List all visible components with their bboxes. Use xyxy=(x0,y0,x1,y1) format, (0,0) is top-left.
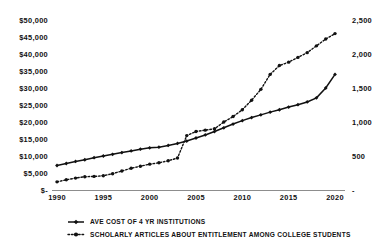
left-axis-tick: $35,000 xyxy=(19,67,48,76)
left-axis-tick: $30,000 xyxy=(19,84,48,93)
data-point xyxy=(129,167,132,170)
x-axis-tick: 1990 xyxy=(48,193,66,202)
data-point xyxy=(55,180,58,183)
legend-label: AVE COST OF 4 YR INSTITUTIONS xyxy=(90,218,206,225)
left-axis-tick: $50,000 xyxy=(19,16,48,25)
left-axis-tick: $- xyxy=(41,186,48,195)
x-axis-tick: 2015 xyxy=(280,193,298,202)
data-point xyxy=(139,165,142,168)
x-axis-tick: 1995 xyxy=(95,193,113,202)
right-axis-tick: 2,000 xyxy=(352,50,372,59)
line-chart: $-$5,000$10,000$15,000$20,000$25,000$30,… xyxy=(0,0,384,250)
x-axis-tick: 2020 xyxy=(326,193,344,202)
data-point xyxy=(333,32,336,35)
data-point xyxy=(324,37,327,40)
legend-marker xyxy=(74,232,78,236)
data-point xyxy=(111,172,114,175)
x-axis-tick: 2000 xyxy=(141,193,159,202)
x-axis-tick: 2010 xyxy=(234,193,252,202)
data-point xyxy=(157,161,160,164)
data-point xyxy=(231,115,234,118)
data-point xyxy=(83,175,86,178)
legend-label: SCHOLARLY ARTICLES ABOUT ENTITLEMENT AMO… xyxy=(90,231,351,238)
left-axis-tick: $10,000 xyxy=(19,152,48,161)
right-axis-tick: 500 xyxy=(352,152,365,161)
left-axis-tick: $45,000 xyxy=(19,33,48,42)
data-point xyxy=(259,88,262,91)
data-point xyxy=(167,159,170,162)
data-point xyxy=(296,56,299,59)
left-axis-tick: $15,000 xyxy=(19,135,48,144)
right-axis-tick: 2,500 xyxy=(352,16,372,25)
data-point xyxy=(306,51,309,54)
data-point xyxy=(176,156,179,159)
data-point xyxy=(287,60,290,63)
data-point xyxy=(241,108,244,111)
data-point xyxy=(278,64,281,67)
data-point xyxy=(120,169,123,172)
chart-container: $-$5,000$10,000$15,000$20,000$25,000$30,… xyxy=(0,0,384,250)
right-axis-tick: 1,000 xyxy=(352,118,372,127)
data-point xyxy=(194,130,197,133)
left-axis-tick: $5,000 xyxy=(24,169,48,178)
data-point xyxy=(315,44,318,47)
data-point xyxy=(65,178,68,181)
data-point xyxy=(92,175,95,178)
data-point xyxy=(222,120,225,123)
right-axis-tick: 1,500 xyxy=(352,84,372,93)
data-point xyxy=(268,73,271,76)
left-axis-tick: $40,000 xyxy=(19,50,48,59)
data-point xyxy=(204,128,207,131)
right-axis-tick: - xyxy=(352,186,355,195)
data-point xyxy=(148,162,151,165)
legend-item[interactable]: SCHOLARLY ARTICLES ABOUT ENTITLEMENT AMO… xyxy=(68,231,351,238)
left-axis-tick: $25,000 xyxy=(19,101,48,110)
data-point xyxy=(102,174,105,177)
left-axis-tick: $20,000 xyxy=(19,118,48,127)
data-point xyxy=(213,127,216,130)
data-point xyxy=(74,176,77,179)
data-point xyxy=(250,99,253,102)
data-point xyxy=(185,134,188,137)
x-axis-tick: 2005 xyxy=(187,193,205,202)
